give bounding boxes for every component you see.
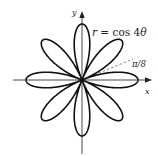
polar-rose-figure: y x r = cos 4θ π/8: [0, 0, 158, 156]
y-axis-label: y: [71, 8, 77, 17]
y-axis-arrow-icon: [79, 11, 84, 18]
angle-label: π/8: [131, 59, 146, 69]
x-axis-arrow-icon: [145, 77, 152, 82]
equation-label: r = cos 4θ: [92, 26, 147, 38]
x-axis-label: x: [145, 87, 150, 96]
